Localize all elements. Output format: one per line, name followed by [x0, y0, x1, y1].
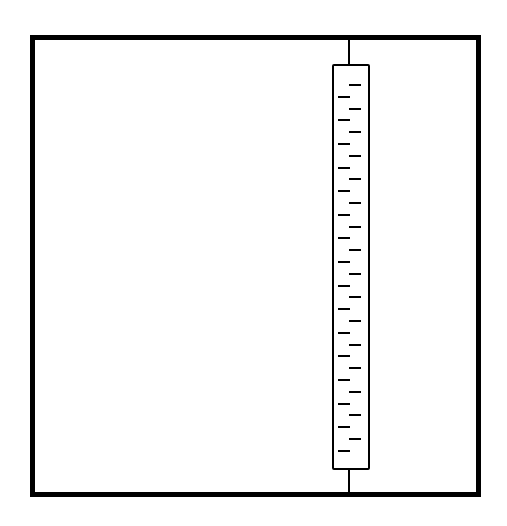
- tick-mark: [338, 119, 350, 121]
- tick-mark: [338, 96, 350, 98]
- tick-mark: [338, 332, 350, 334]
- tick-mark: [349, 320, 361, 322]
- graduated-tube: [332, 64, 370, 470]
- tick-mark: [349, 131, 361, 133]
- tick-mark: [338, 143, 350, 145]
- tick-mark: [349, 178, 361, 180]
- rod-bottom: [348, 468, 350, 492]
- tick-mark: [338, 450, 350, 452]
- tick-mark: [349, 84, 361, 86]
- tick-mark: [349, 249, 361, 251]
- tick-mark: [338, 167, 350, 169]
- square-frame: [30, 35, 481, 497]
- tick-mark: [349, 438, 361, 440]
- tick-mark: [338, 426, 350, 428]
- tick-mark: [349, 202, 361, 204]
- tick-mark: [349, 414, 361, 416]
- tick-mark: [349, 108, 361, 110]
- tick-mark: [338, 261, 350, 263]
- tick-mark: [349, 344, 361, 346]
- tick-mark: [349, 296, 361, 298]
- tick-mark: [338, 285, 350, 287]
- tick-mark: [338, 237, 350, 239]
- rod-top: [348, 40, 350, 66]
- tick-mark: [338, 190, 350, 192]
- tick-mark: [349, 391, 361, 393]
- tick-mark: [349, 367, 361, 369]
- tick-mark: [338, 379, 350, 381]
- tick-mark: [338, 355, 350, 357]
- tick-mark: [338, 403, 350, 405]
- tick-mark: [338, 308, 350, 310]
- tick-mark: [349, 226, 361, 228]
- tick-mark: [349, 273, 361, 275]
- tick-mark: [349, 155, 361, 157]
- tick-mark: [338, 214, 350, 216]
